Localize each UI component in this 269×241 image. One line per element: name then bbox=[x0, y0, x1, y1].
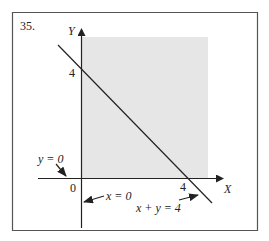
x-eq-label: x = 0 bbox=[105, 189, 131, 203]
shaded-region bbox=[82, 37, 208, 178]
graph-figure: 35. Y X 4 4 0 y = 0 x = 0 x + y = 4 bbox=[0, 0, 269, 241]
figure-number: 35. bbox=[20, 19, 35, 33]
line-eq-label: x + y = 4 bbox=[135, 201, 181, 215]
y-axis-label: Y bbox=[68, 24, 76, 38]
origin-label: 0 bbox=[70, 181, 76, 195]
line-eq-arrow bbox=[179, 195, 198, 200]
x-eq-arrow bbox=[84, 196, 104, 202]
y-eq-label: y = 0 bbox=[37, 152, 63, 166]
y-intercept-label: 4 bbox=[69, 66, 75, 80]
x-axis-label: X bbox=[223, 182, 232, 196]
x-intercept-label: 4 bbox=[180, 180, 186, 194]
